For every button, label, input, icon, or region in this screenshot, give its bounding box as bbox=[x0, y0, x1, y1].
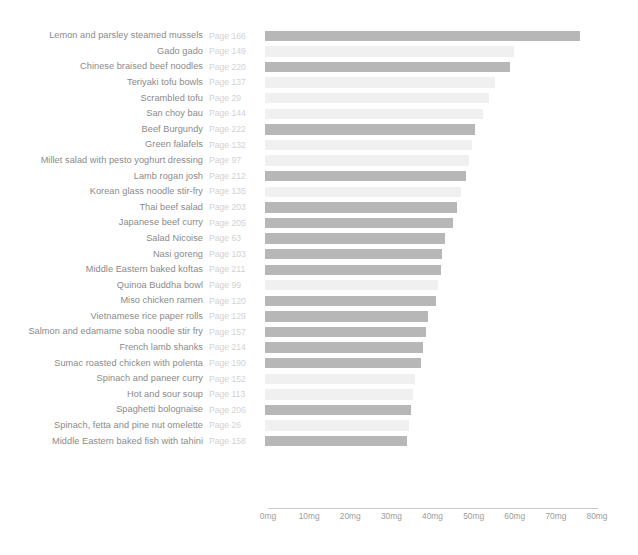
page-reference: Page 97 bbox=[209, 156, 265, 165]
value-bar bbox=[265, 420, 409, 430]
bar-track bbox=[265, 246, 638, 262]
bar-track bbox=[265, 355, 638, 371]
recipe-label: Spinach, fetta and pine nut omelette bbox=[0, 421, 209, 430]
page-reference: Page 212 bbox=[209, 172, 265, 181]
recipe-label: Thai beef salad bbox=[0, 203, 209, 212]
value-bar bbox=[265, 311, 428, 321]
value-bar bbox=[265, 187, 461, 197]
bar-track bbox=[265, 59, 638, 75]
bar-track bbox=[265, 387, 638, 403]
recipe-label: Middle Eastern baked fish with tahini bbox=[0, 437, 209, 446]
recipe-label: Nasi goreng bbox=[0, 250, 209, 259]
chart-row: Middle Eastern baked fish with tahiniPag… bbox=[0, 433, 638, 449]
bar-track bbox=[265, 231, 638, 247]
x-tick-label: 0mg bbox=[260, 512, 276, 520]
chart-row: Japanese beef curryPage 205 bbox=[0, 215, 638, 231]
x-tick-label: 60mg bbox=[504, 512, 525, 520]
chart-row: Korean glass noodle stir-fryPage 135 bbox=[0, 184, 638, 200]
x-tick-label: 30mg bbox=[381, 512, 402, 520]
x-tick-label: 80mg bbox=[587, 512, 608, 520]
value-bar bbox=[265, 46, 514, 56]
bar-track bbox=[265, 184, 638, 200]
chart-row: Spaghetti bolognaisePage 206 bbox=[0, 402, 638, 418]
bar-track bbox=[265, 262, 638, 278]
page-reference: Page 211 bbox=[209, 265, 265, 274]
recipe-label: Lemon and parsley steamed mussels bbox=[0, 31, 209, 40]
recipe-label: Salmon and edamame soba noodle stir fry bbox=[0, 327, 209, 336]
bar-track bbox=[265, 278, 638, 294]
recipe-label: Chinese braised beef noodles bbox=[0, 62, 209, 71]
x-axis-line bbox=[268, 508, 598, 509]
bar-track bbox=[265, 433, 638, 449]
value-bar bbox=[265, 405, 411, 415]
chart-row: Hot and sour soupPage 113 bbox=[0, 387, 638, 403]
x-tick-label: 70mg bbox=[545, 512, 566, 520]
page-reference: Page 63 bbox=[209, 234, 265, 243]
value-bar bbox=[265, 265, 441, 275]
recipe-label: Gado gado bbox=[0, 47, 209, 56]
recipe-label: Sumac roasted chicken with polenta bbox=[0, 359, 209, 368]
page-reference: Page 206 bbox=[209, 406, 265, 415]
nutrient-bar-chart: Lemon and parsley steamed musselsPage 16… bbox=[0, 0, 638, 555]
value-bar bbox=[265, 171, 466, 181]
x-tick-label: 10mg bbox=[299, 512, 320, 520]
page-reference: Page 152 bbox=[209, 375, 265, 384]
bar-track bbox=[265, 28, 638, 44]
chart-row: Middle Eastern baked koftasPage 211 bbox=[0, 262, 638, 278]
value-bar bbox=[265, 124, 475, 134]
page-reference: Page 120 bbox=[209, 297, 265, 306]
chart-row: Spinach, fetta and pine nut omelettePage… bbox=[0, 418, 638, 434]
page-reference: Page 129 bbox=[209, 312, 265, 321]
chart-row: Teriyaki tofu bowlsPage 137 bbox=[0, 75, 638, 91]
bar-track bbox=[265, 340, 638, 356]
page-reference: Page 149 bbox=[209, 47, 265, 56]
chart-row: Thai beef saladPage 203 bbox=[0, 200, 638, 216]
recipe-label: Scrambled tofu bbox=[0, 94, 209, 103]
recipe-label: Teriyaki tofu bowls bbox=[0, 78, 209, 87]
chart-row: Nasi gorengPage 103 bbox=[0, 246, 638, 262]
value-bar bbox=[265, 280, 438, 290]
page-reference: Page 135 bbox=[209, 187, 265, 196]
bar-track bbox=[265, 200, 638, 216]
value-bar bbox=[265, 233, 445, 243]
chart-row: Chinese braised beef noodlesPage 220 bbox=[0, 59, 638, 75]
chart-row: Lemon and parsley steamed musselsPage 16… bbox=[0, 28, 638, 44]
bar-track bbox=[265, 324, 638, 340]
bar-track bbox=[265, 402, 638, 418]
value-bar bbox=[265, 374, 415, 384]
chart-rows: Lemon and parsley steamed musselsPage 16… bbox=[0, 28, 638, 449]
page-reference: Page 166 bbox=[209, 32, 265, 41]
bar-track bbox=[265, 371, 638, 387]
chart-row: Scrambled tofuPage 29 bbox=[0, 90, 638, 106]
recipe-label: Hot and sour soup bbox=[0, 390, 209, 399]
value-bar bbox=[265, 218, 453, 228]
value-bar bbox=[265, 31, 580, 41]
page-reference: Page 157 bbox=[209, 328, 265, 337]
value-bar bbox=[265, 358, 421, 368]
bar-track bbox=[265, 168, 638, 184]
page-reference: Page 190 bbox=[209, 359, 265, 368]
value-bar bbox=[265, 93, 489, 103]
bar-track bbox=[265, 309, 638, 325]
page-reference: Page 144 bbox=[209, 109, 265, 118]
bar-track bbox=[265, 293, 638, 309]
recipe-label: Millet salad with pesto yoghurt dressing bbox=[0, 156, 209, 165]
value-bar bbox=[265, 62, 510, 72]
chart-row: Beef BurgundyPage 222 bbox=[0, 122, 638, 138]
bar-track bbox=[265, 122, 638, 138]
recipe-label: Japanese beef curry bbox=[0, 218, 209, 227]
chart-row: Quinoa Buddha bowlPage 99 bbox=[0, 278, 638, 294]
page-reference: Page 132 bbox=[209, 141, 265, 150]
bar-track bbox=[265, 215, 638, 231]
page-reference: Page 26 bbox=[209, 421, 265, 430]
chart-row: Millet salad with pesto yoghurt dressing… bbox=[0, 153, 638, 169]
chart-row: French lamb shanksPage 214 bbox=[0, 340, 638, 356]
chart-row: Lamb rogan joshPage 212 bbox=[0, 168, 638, 184]
value-bar bbox=[265, 296, 436, 306]
recipe-label: Miso chicken ramen bbox=[0, 296, 209, 305]
chart-row: San choy bauPage 144 bbox=[0, 106, 638, 122]
chart-row: Spinach and paneer curryPage 152 bbox=[0, 371, 638, 387]
page-reference: Page 113 bbox=[209, 390, 265, 399]
recipe-label: Green falafels bbox=[0, 140, 209, 149]
value-bar bbox=[265, 389, 413, 399]
